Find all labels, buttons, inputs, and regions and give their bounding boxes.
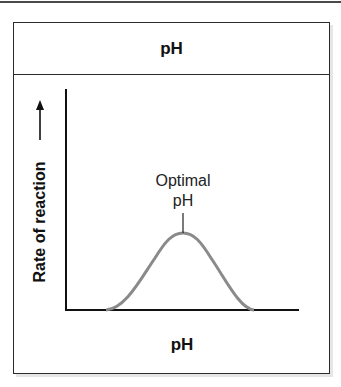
y-axis-arrow-icon (36, 100, 44, 140)
x-axis-label: pH (171, 335, 194, 354)
rate-vs-ph-chart: Optimal pH pH Rate of reaction (0, 0, 341, 387)
y-axis-label: Rate of reaction (31, 162, 48, 283)
annotation-ph: pH (173, 192, 193, 209)
annotation-optimal: Optimal (155, 172, 210, 189)
rate-curve (106, 233, 254, 310)
